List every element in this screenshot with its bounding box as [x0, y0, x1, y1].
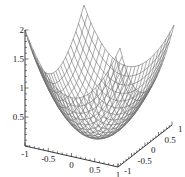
- mesh-line-x-23: [116, 32, 170, 100]
- y-tick-label: -1: [124, 166, 132, 176]
- y-tick-label: 0.5: [165, 135, 177, 145]
- x-tick-label: -0.5: [41, 154, 56, 164]
- y-tick-label: 0: [151, 145, 156, 155]
- mesh-line-x-1: [29, 14, 87, 83]
- z-tick-label: 1: [20, 83, 25, 93]
- z-tick-label: 1.5: [13, 54, 25, 64]
- x-tick-label: 0: [69, 160, 74, 170]
- x-tick-label: 1: [116, 170, 121, 177]
- x-tick-label: -1: [21, 149, 29, 159]
- tick-labels: 0.511.52-1-0.500.51-1-0.500.51: [13, 25, 183, 177]
- surface-plot: 0.511.52-1-0.500.51-1-0.500.51: [0, 0, 185, 177]
- mesh-line-x-24: [120, 25, 174, 92]
- y-tick-label: 1: [178, 124, 183, 134]
- y-tick-label: -0.5: [138, 156, 153, 166]
- z-tick-label: 0.5: [13, 112, 25, 122]
- surface-mesh: [25, 5, 174, 139]
- mesh-line-x-0: [25, 5, 84, 74]
- x-tick-label: 0.5: [89, 165, 101, 175]
- z-tick-label: 2: [20, 25, 25, 35]
